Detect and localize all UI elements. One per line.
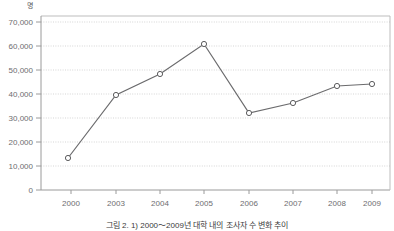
- y-axis-ticks: [36, 22, 41, 190]
- xtick-label-2005: 2005: [195, 199, 213, 208]
- x-axis-tick-labels: 2000 2003 2004 2005 2006 2007 2008 2009: [62, 199, 381, 208]
- data-line: [68, 44, 372, 158]
- ytick-label: 0: [29, 186, 34, 195]
- ytick-label: 10,000: [9, 162, 34, 171]
- xtick-label-2003: 2003: [107, 199, 125, 208]
- xtick-label-2006: 2006: [240, 199, 258, 208]
- grid-lines: [41, 22, 390, 166]
- data-point: [65, 155, 70, 160]
- y-axis-tick-labels: 70,000 60,000 50,000 40,000 30,000 20,00…: [9, 18, 34, 195]
- data-point: [369, 81, 374, 86]
- ytick-label: 60,000: [9, 42, 34, 51]
- line-chart: 70,000 60,000 50,000 40,000 30,000 20,00…: [0, 0, 394, 231]
- ytick-label: 50,000: [9, 66, 34, 75]
- ytick-label: 40,000: [9, 90, 34, 99]
- xtick-label-2000: 2000: [62, 199, 80, 208]
- plot-border: [41, 16, 390, 190]
- x-axis-ticks: [71, 190, 372, 194]
- xtick-label-2007: 2007: [284, 199, 302, 208]
- xtick-label-2008: 2008: [328, 199, 346, 208]
- chart-figure: 명 70,000 60,: [0, 0, 394, 231]
- ytick-label: 70,000: [9, 18, 34, 27]
- data-point: [113, 92, 118, 97]
- data-point: [157, 71, 162, 76]
- figure-caption: 그림 2. 1) 2000～2009년 대학 내의 조사자 수 변화 추이: [0, 219, 394, 230]
- ytick-label: 20,000: [9, 138, 34, 147]
- ytick-label: 30,000: [9, 114, 34, 123]
- data-point: [290, 100, 295, 105]
- xtick-label-2009: 2009: [363, 199, 381, 208]
- data-point: [334, 83, 339, 88]
- xtick-label-2004: 2004: [151, 199, 169, 208]
- data-point: [246, 110, 251, 115]
- data-point: [201, 41, 206, 46]
